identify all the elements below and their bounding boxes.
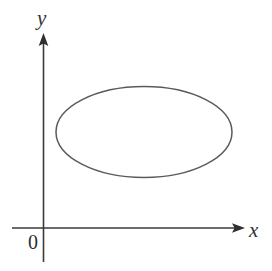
ellipse-curve [56, 87, 232, 178]
x-axis-label: x [249, 220, 258, 241]
coordinate-plane-graphic [0, 0, 272, 271]
figure-canvas: y x 0 [0, 0, 272, 271]
origin-label: 0 [28, 232, 38, 252]
y-axis-label: y [37, 8, 46, 29]
